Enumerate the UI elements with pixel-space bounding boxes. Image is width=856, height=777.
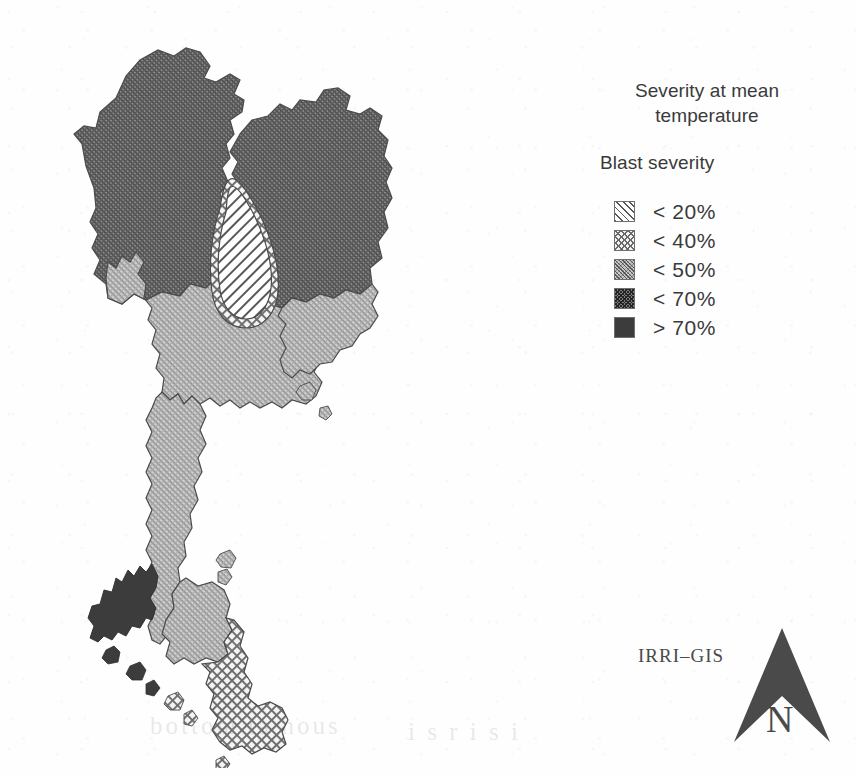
legend-item-gt70: > 70%: [614, 313, 850, 342]
north-arrow-icon: [730, 624, 834, 764]
zone-andaman-coast: [88, 564, 158, 642]
legend-item-lt40: < 40%: [614, 226, 850, 255]
zone-southern-islet-3: [216, 756, 230, 768]
legend-item-lt70: < 70%: [614, 284, 850, 313]
figure-page: Severity at mean temperature Blast sever…: [0, 0, 856, 777]
legend-item-lt20: < 20%: [614, 197, 850, 226]
north-arrow-label: N: [766, 700, 793, 738]
zone-andaman-islet-3: [146, 680, 160, 696]
zone-andaman-islet-2: [126, 662, 146, 680]
zone-eastern-seaboard: [278, 284, 378, 378]
legend-label-lt40: < 40%: [653, 230, 716, 251]
legend-swatch-gt70-icon: [614, 317, 635, 338]
legend-swatch-lt70-icon: [614, 288, 635, 309]
legend-label-gt70: > 70%: [653, 317, 716, 338]
legend-label-lt50: < 50%: [653, 259, 716, 280]
zone-andaman-islet-1: [102, 646, 120, 664]
island-ko-samui: [216, 550, 236, 568]
zone-southern-islet-1: [164, 692, 184, 710]
bleed-through-text-right: i s r i s i: [408, 718, 521, 746]
legend-subtitle: Blast severity: [600, 150, 850, 175]
island-gulf-1: [319, 406, 332, 420]
legend-swatch-lt20-icon: [614, 201, 635, 222]
legend-swatch-lt40-icon: [614, 230, 635, 251]
map-credit: IRRI–GIS: [638, 645, 724, 667]
legend-items: < 20% < 40% < 50% < 70% > 70%: [614, 197, 850, 342]
legend-swatch-lt50-icon: [614, 259, 635, 280]
legend-item-lt50: < 50%: [614, 255, 850, 284]
legend-label-lt70: < 70%: [653, 288, 716, 309]
island-ko-phangan: [218, 569, 232, 585]
legend-label-lt20: < 20%: [653, 201, 716, 222]
zone-southern-islet-2: [184, 710, 198, 726]
legend: Severity at mean temperature Blast sever…: [600, 78, 850, 342]
thailand-severity-map: [34, 16, 414, 768]
legend-title: Severity at mean temperature: [600, 78, 814, 128]
